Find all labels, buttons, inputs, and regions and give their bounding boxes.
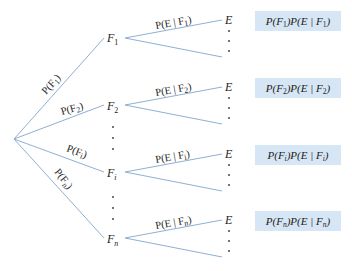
root-edges (14, 38, 104, 238)
ellipsis-dot (228, 184, 230, 186)
edge-root-f2 (14, 105, 104, 139)
ellipsis-dot (228, 107, 230, 109)
ellipsis-dot (112, 207, 114, 209)
product-text-4: P(Fn)P(E | Fn) (265, 215, 331, 229)
node-fn: Fn (106, 232, 118, 248)
product-box-2: P(F2)P(E | F2) (255, 78, 341, 98)
ellipsis-dot (228, 230, 230, 232)
product-text-1: P(F1)P(E | F1) (265, 15, 331, 29)
ellipsis-dot (228, 30, 230, 32)
ellipsis-dot (228, 40, 230, 42)
second-level-edge-labels: P(E | F1) P(E | F2) P(E | Fi) P(E | Fn) (154, 14, 193, 233)
edge-label-p-e-given-f1: P(E | F1) (154, 14, 193, 33)
leaf-nodes: E E E E (224, 13, 233, 227)
ellipsis-dot (112, 126, 114, 128)
edge-root-f1 (14, 38, 104, 139)
product-text-3: P(Fi)P(E | Fi) (267, 149, 329, 163)
node-fi: Fi (106, 166, 117, 182)
ellipsis-dot (112, 196, 114, 198)
edge-f2-other (125, 105, 222, 124)
ellipsis-dot (228, 164, 230, 166)
ellipsis-dot (228, 174, 230, 176)
edge-f1-other (125, 38, 222, 57)
product-box-4: P(Fn)P(E | Fn) (255, 211, 341, 231)
node-f2: F2 (106, 99, 118, 115)
edge-fn-other (125, 238, 222, 257)
edge-fi-other (125, 172, 222, 191)
ellipsis-dot (228, 117, 230, 119)
ellipsis-dot (112, 137, 114, 139)
ellipsis-dot (112, 218, 114, 220)
edge-label-p-f2: P(F2) (60, 100, 86, 119)
first-level-nodes: F1 F2 Fi Fn (106, 31, 118, 248)
edge-label-p-e-given-fi: P(E | Fi) (154, 148, 191, 167)
product-box-1: P(F1)P(E | F1) (255, 11, 341, 31)
leaf-e-1: E (224, 13, 233, 27)
leaf-e-4: E (224, 213, 233, 227)
product-box-3: P(Fi)P(E | Fi) (255, 145, 341, 165)
ellipsis-dot (228, 240, 230, 242)
edge-root-fn (14, 139, 104, 238)
edge-label-p-e-given-fn: P(E | Fn) (154, 214, 193, 233)
edge-label-p-f1: P(F1) (39, 72, 64, 98)
edge-label-p-fn: P(Fn) (51, 166, 76, 192)
probability-tree-diagram: P(F1) P(F2) P(Fi) P(Fn) F1 F2 Fi Fn (0, 0, 352, 271)
ellipsis-dot (228, 250, 230, 252)
edge-label-p-e-given-f2: P(E | F2) (154, 81, 193, 100)
node-f1: F1 (106, 31, 118, 47)
leaf-e-2: E (224, 80, 233, 94)
leaf-e-3: E (224, 147, 233, 161)
ellipsis-dot (228, 97, 230, 99)
product-text-2: P(F2)P(E | F2) (265, 82, 331, 96)
ellipsis-dot (228, 50, 230, 52)
ellipsis-dot (112, 148, 114, 150)
product-boxes: P(F1)P(E | F1) P(F2)P(E | F2) P(Fi)P(E |… (255, 11, 341, 231)
